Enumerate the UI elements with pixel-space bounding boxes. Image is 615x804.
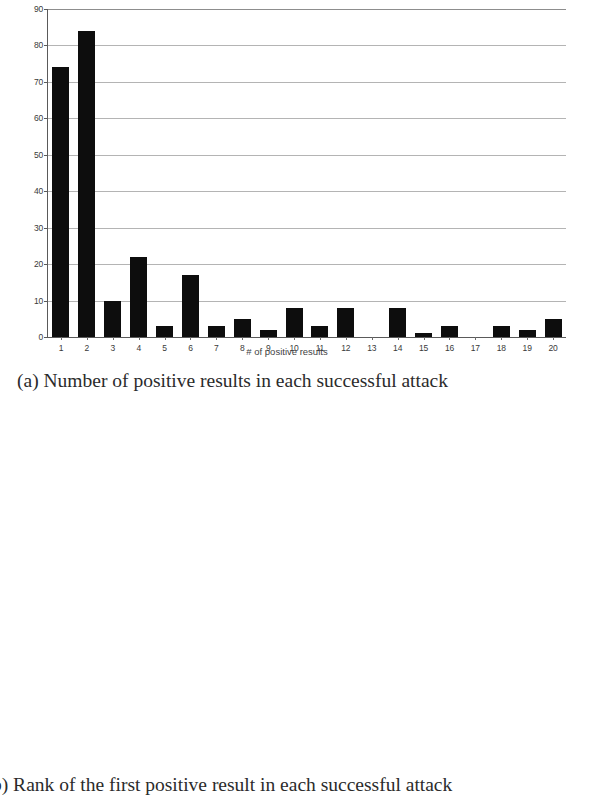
x-tick-label: 19 (523, 337, 532, 353)
bar (286, 308, 303, 337)
y-tick-label: 10 (34, 296, 48, 305)
x-tick-label: 14 (393, 337, 402, 353)
x-tick-label: 20 (549, 337, 558, 353)
bar (208, 326, 225, 337)
bar (234, 319, 251, 337)
gridline (48, 9, 566, 10)
x-tick-label: 3 (110, 337, 115, 353)
chart-positive-results: 0102030405060708090123456789101112131415… (0, 0, 615, 360)
bar (52, 67, 69, 337)
bar (337, 308, 354, 337)
caption-a: (a) Number of positive results in each s… (17, 371, 448, 391)
plot-area-a: 0102030405060708090123456789101112131415… (47, 9, 566, 338)
y-tick-label: 90 (34, 5, 48, 14)
y-tick-label: 60 (34, 114, 48, 123)
bar (311, 326, 328, 337)
y-tick-label: 30 (34, 223, 48, 232)
chart-rank-first-positive: 0102030405060701357911131517192123252729… (0, 405, 615, 765)
bar (545, 319, 562, 337)
x-tick-label: 15 (419, 337, 428, 353)
y-tick-label: 40 (34, 187, 48, 196)
figure-page: 0102030405060708090123456789101112131415… (0, 0, 615, 804)
bar (519, 330, 536, 337)
x-tick-label: 18 (497, 337, 506, 353)
y-tick-label: 50 (34, 151, 48, 160)
bar (104, 301, 121, 337)
bar (441, 326, 458, 337)
gridline (48, 82, 566, 83)
x-tick-label: 7 (214, 337, 219, 353)
gridline (48, 118, 566, 119)
bar (130, 257, 147, 337)
bar (260, 330, 277, 337)
x-tick-label: 2 (85, 337, 90, 353)
x-tick-label: 6 (188, 337, 193, 353)
y-tick-label: 20 (34, 260, 48, 269)
x-tick-label: 5 (162, 337, 167, 353)
y-tick-label: 0 (38, 333, 48, 342)
x-tick-label: 1 (59, 337, 64, 353)
caption-b: b) Rank of the first positive result in … (0, 775, 452, 795)
gridline (48, 45, 566, 46)
gridline (48, 228, 566, 229)
gridline (48, 264, 566, 265)
bar (182, 275, 199, 337)
y-tick-label: 80 (34, 41, 48, 50)
bar (156, 326, 173, 337)
gridline (48, 155, 566, 156)
bar (389, 308, 406, 337)
x-tick-label: 8 (240, 337, 245, 353)
x-tick-label: 16 (445, 337, 454, 353)
bar (78, 31, 95, 337)
gridline (48, 191, 566, 192)
x-tick-label: 13 (367, 337, 376, 353)
gridline (48, 301, 566, 302)
x-axis-title-a: # of positive results (246, 347, 327, 357)
x-tick-label: 12 (341, 337, 350, 353)
y-tick-label: 70 (34, 78, 48, 87)
x-tick-label: 17 (471, 337, 480, 353)
x-tick-label: 4 (136, 337, 141, 353)
bar (493, 326, 510, 337)
